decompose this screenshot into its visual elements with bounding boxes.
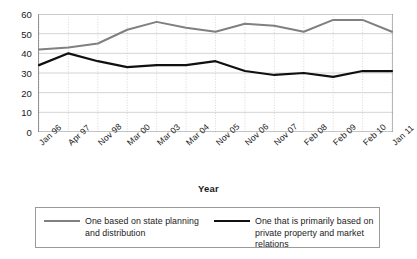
y-tick-label: 0 [12, 127, 32, 138]
legend-line-swatch-gray [44, 216, 80, 225]
chart-figure: 0102030405060 Jan 96Apr 97Nov 98Mar 00Ma… [0, 0, 417, 259]
legend-item-private-property: One that is primarily based on private p… [214, 216, 379, 251]
y-tick-label: 10 [12, 107, 32, 118]
x-axis-title: Year [0, 183, 417, 194]
legend-item-state-planning: One based on state planning and distribu… [44, 216, 209, 239]
x-axis-labels: Jan 96Apr 97Nov 98Mar 00Mar 03Mar 04Nov … [38, 135, 393, 179]
y-tick-label: 40 [12, 48, 32, 59]
y-tick-label: 30 [12, 68, 32, 79]
legend-label: One that is primarily based on private p… [255, 216, 379, 251]
y-tick-label: 50 [12, 28, 32, 39]
chart-legend: One based on state planning and distribu… [35, 207, 380, 248]
legend-line-swatch-black [214, 216, 250, 225]
y-axis-labels: 0102030405060 [10, 14, 32, 132]
y-tick-label: 20 [12, 87, 32, 98]
y-tick-label: 60 [12, 9, 32, 20]
cut-off-caption [0, 252, 417, 259]
x-tick-label: Jan 11 [390, 123, 416, 148]
plot-svg [38, 14, 393, 132]
legend-label: One based on state planning and distribu… [85, 216, 209, 239]
plot-area [38, 14, 393, 132]
